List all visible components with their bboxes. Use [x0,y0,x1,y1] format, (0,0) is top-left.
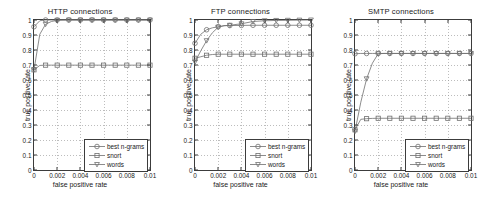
y-tick-mark [195,65,198,66]
y-tick-mark [147,35,150,36]
x-tick-mark [57,20,58,23]
grid-line-horizontal [195,50,311,51]
x-tick-mark [264,20,265,23]
y-tick-mark [355,110,358,111]
x-tick-mark [103,20,104,23]
x-tick-mark [241,20,242,23]
y-tick-label: 0.3 [344,122,353,129]
grid-line-horizontal [34,65,150,66]
y-tick-mark [355,125,358,126]
y-tick-mark [195,125,198,126]
legend-item: snort [87,151,144,160]
legend-marker-square-icon [87,151,107,160]
x-tick-mark [424,20,425,23]
y-tick-mark [355,50,358,51]
y-tick-mark [34,155,37,156]
grid-line-vertical [57,20,58,170]
y-tick-label: 1 [28,17,32,24]
legend-label: snort [107,151,121,160]
y-tick-mark [147,110,150,111]
legend-label: words [268,160,285,169]
series-line [34,20,150,27]
legend-item: words [408,160,465,169]
grid-line-vertical [401,20,402,170]
x-tick-mark [471,20,472,23]
plot-area: 00.10.20.30.40.50.60.70.80.9100.0020.004… [354,19,472,171]
y-tick-mark [355,80,358,81]
y-tick-mark [147,80,150,81]
grid-line-horizontal [355,35,471,36]
x-tick-mark [150,20,151,23]
grid-line-vertical [378,20,379,170]
y-tick-label: 0.4 [344,107,353,114]
x-tick-label: 0 [193,172,197,179]
legend-item: words [248,160,305,169]
grid-line-horizontal [355,50,471,51]
x-axis-label: false positive rate [321,181,481,188]
y-tick-mark [468,35,471,36]
x-tick-mark [311,167,312,170]
chart-panel-smtp: SMTP connections true positive rate fals… [321,0,481,202]
legend-marker-square-icon [408,151,428,160]
x-tick-label: 0.006 [417,172,433,179]
grid-line-horizontal [34,110,150,111]
legend-item: best n-grams [87,142,144,151]
y-tick-mark [34,80,37,81]
y-tick-label: 0.1 [23,152,32,159]
y-tick-mark [195,35,198,36]
chart-panel-ftp: FTP connections true positive rate false… [160,0,321,202]
x-tick-mark [195,167,196,170]
legend-label: best n-grams [428,142,465,151]
grid-line-horizontal [355,125,471,126]
grid-line-horizontal [34,50,150,51]
y-tick-mark [147,50,150,51]
grid-line-horizontal [34,35,150,36]
y-tick-label: 0.9 [344,32,353,39]
legend-item: snort [408,151,465,160]
grid-line-horizontal [195,125,311,126]
x-tick-label: 0.006 [96,172,112,179]
x-tick-mark [401,167,402,170]
x-tick-mark [355,20,356,23]
grid-line-horizontal [355,95,471,96]
legend: best n-gramssnortwords [84,139,148,172]
legend-item: best n-grams [408,142,465,151]
y-tick-label: 0 [189,167,193,174]
x-tick-mark [378,167,379,170]
x-tick-mark [355,167,356,170]
legend-marker-triangle-down-icon [408,160,428,169]
grid-line-horizontal [355,65,471,66]
grid-line-horizontal [34,80,150,81]
y-tick-mark [34,110,37,111]
y-tick-mark [308,35,311,36]
x-tick-label: 0.008 [119,172,135,179]
y-tick-mark [355,140,358,141]
y-tick-label: 0.1 [184,152,193,159]
y-tick-mark [195,95,198,96]
x-tick-label: 0.004 [72,172,88,179]
y-tick-mark [147,125,150,126]
y-tick-mark [355,95,358,96]
x-tick-mark [471,167,472,170]
x-tick-mark [80,167,81,170]
x-tick-mark [80,20,81,23]
x-tick-label: 0.008 [440,172,456,179]
y-tick-label: 0.8 [344,47,353,54]
y-tick-label: 0.6 [23,77,32,84]
legend-marker-circle-icon [408,142,428,151]
y-tick-mark [34,65,37,66]
legend-label: best n-grams [107,142,144,151]
chart-title: FTP connections [160,7,321,16]
grid-line-horizontal [355,110,471,111]
y-tick-mark [34,50,37,51]
y-tick-label: 0 [349,167,353,174]
x-tick-label: 0.002 [210,172,226,179]
x-tick-label: 0.002 [49,172,65,179]
y-tick-mark [195,80,198,81]
x-axis-label: false positive rate [0,181,160,188]
y-tick-mark [195,155,198,156]
grid-line-horizontal [195,110,311,111]
legend-marker-triangle-down-icon [248,160,268,169]
x-tick-label: 0 [32,172,36,179]
x-tick-mark [195,20,196,23]
